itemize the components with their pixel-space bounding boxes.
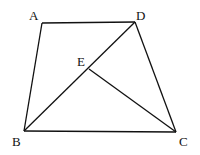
label-C: C (179, 134, 188, 149)
label-E: E (77, 54, 85, 69)
segment-AB (24, 23, 42, 131)
segment-AD (42, 22, 135, 23)
geometry-diagram: A D E B C (0, 0, 200, 155)
label-D: D (136, 8, 145, 23)
segment-DC (135, 22, 176, 132)
segment-EC (89, 69, 176, 132)
segment-BD (24, 22, 135, 131)
segment-BC (24, 131, 176, 132)
label-A: A (29, 8, 39, 23)
label-B: B (12, 134, 21, 149)
